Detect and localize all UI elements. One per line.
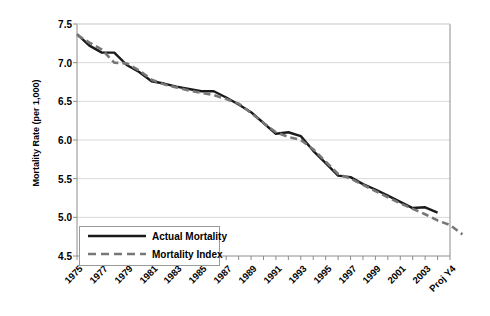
y-tick-label: 5.5 [38,173,72,184]
y-tick-label: 4.5 [38,251,72,262]
chart-legend: Actual Mortality Mortality Index [79,226,220,266]
y-tick-label: 6.0 [38,135,72,146]
chart-container: Mortality Rate (per 1,000) 4.55.05.56.06… [0,0,490,316]
legend-item-mortality-index: Mortality Index [80,245,219,263]
legend-dashed-line-swatch [86,249,148,259]
legend-label-actual-mortality: Actual Mortality [152,231,227,242]
legend-label-mortality-index: Mortality Index [152,249,223,260]
y-axis-tick-labels: 4.55.05.56.06.57.07.5 [36,0,72,316]
legend-item-actual-mortality: Actual Mortality [80,227,219,245]
y-axis-tick-marks [73,24,77,256]
y-tick-label: 7.5 [38,19,72,30]
y-tick-label: 7.0 [38,57,72,68]
legend-solid-line-swatch [86,231,148,241]
y-tick-label: 6.5 [38,96,72,107]
y-tick-label: 5.0 [38,212,72,223]
